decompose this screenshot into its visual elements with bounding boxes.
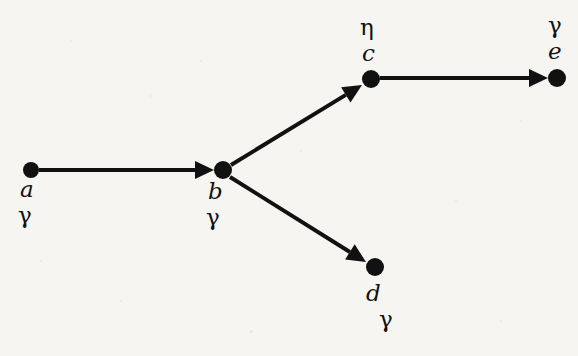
- diagram-canvas: aγbγcηdγeγ: [0, 0, 578, 356]
- paper-speck: [300, 150, 302, 152]
- paper-speck: [455, 200, 457, 202]
- edge-line: [230, 177, 350, 252]
- edge-line: [231, 95, 346, 165]
- node-d-type-label: γ: [379, 308, 393, 331]
- edge-a-b: [39, 161, 214, 179]
- node-b-type-label: γ: [206, 206, 220, 229]
- node-c-type-label: η: [360, 16, 374, 39]
- edge-b-d: [230, 177, 366, 262]
- paper-speck: [520, 120, 522, 122]
- paper-speck: [120, 300, 122, 302]
- node-c-name-label: c: [362, 42, 375, 65]
- node-a-type-label: γ: [18, 204, 32, 227]
- node-c: [362, 70, 380, 88]
- edge-b-c: [231, 85, 362, 165]
- paper-speck: [500, 320, 502, 322]
- arrowhead-icon: [529, 69, 548, 87]
- node-b-name-label: b: [208, 180, 223, 203]
- edges-layer: [39, 69, 548, 262]
- paper-speck: [40, 260, 42, 262]
- node-a-name-label: a: [20, 178, 34, 201]
- paper-speck: [250, 330, 253, 333]
- node-e: [548, 69, 566, 87]
- nodes-layer: [23, 69, 566, 276]
- graph-svg: [0, 0, 578, 356]
- paper-speck: [70, 40, 72, 42]
- paper-speck: [200, 60, 202, 62]
- edge-c-e: [380, 69, 548, 87]
- node-d-name-label: d: [366, 282, 381, 305]
- paper-speck: [150, 95, 152, 97]
- node-e-type-label: γ: [548, 14, 562, 37]
- node-e-name-label: e: [548, 40, 562, 63]
- arrowhead-icon: [195, 161, 214, 179]
- node-b: [214, 161, 232, 179]
- node-d: [366, 258, 384, 276]
